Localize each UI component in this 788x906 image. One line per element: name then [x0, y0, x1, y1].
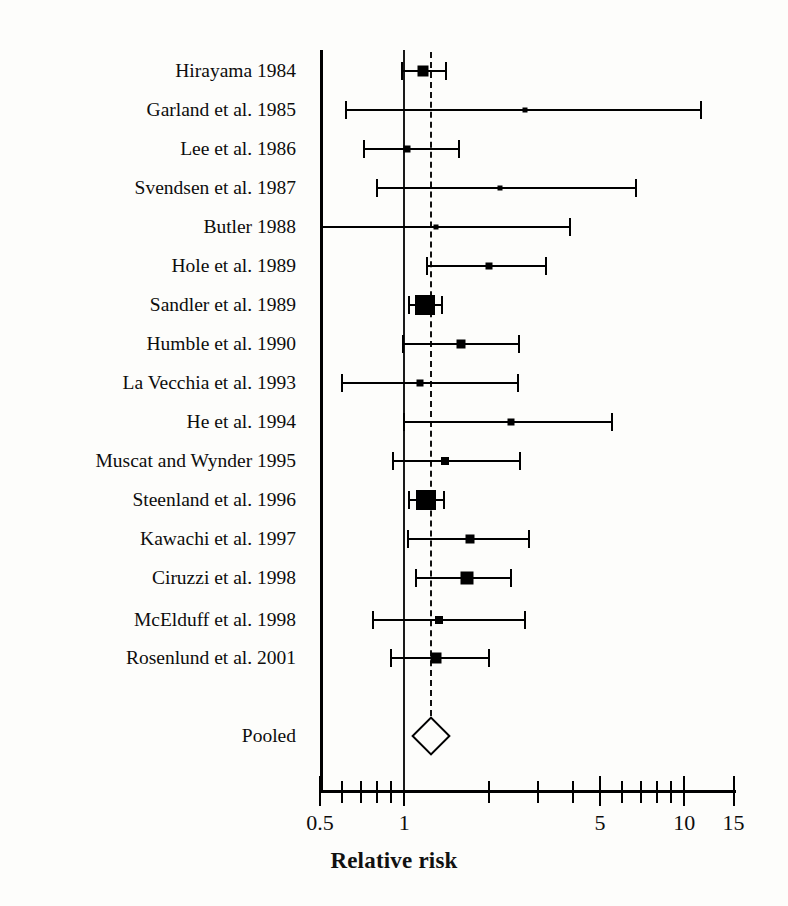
- ci-cap-high: [458, 140, 460, 158]
- x-axis-tick: [683, 776, 685, 806]
- x-axis-tick: [341, 781, 343, 803]
- effect-size-box: [523, 108, 528, 113]
- effect-size-box: [498, 186, 503, 191]
- x-axis-tick: [360, 781, 362, 803]
- ci-cap-high: [528, 530, 530, 548]
- effect-size-box: [486, 263, 493, 270]
- study-label: Hole et al. 1989: [171, 256, 296, 276]
- ci-cap-low: [403, 413, 405, 431]
- ci-cap-low: [402, 335, 404, 353]
- effect-size-box: [456, 340, 465, 349]
- ci-cap-low: [392, 452, 394, 470]
- ci-cap-high: [488, 649, 490, 667]
- study-label: La Vecchia et al. 1993: [123, 373, 296, 393]
- ci-cap-low: [345, 101, 347, 119]
- x-axis-tick: [733, 776, 735, 806]
- ci-cap-high: [545, 257, 547, 275]
- study-label: McElduff et al. 1998: [134, 610, 296, 630]
- ci-cap-low: [426, 257, 428, 275]
- ci-cap-low: [408, 491, 410, 509]
- x-axis-line: [320, 790, 736, 793]
- x-axis-tick: [656, 781, 658, 803]
- confidence-interval-line: [377, 187, 635, 189]
- x-axis-tick: [599, 776, 601, 806]
- effect-size-box: [417, 380, 424, 387]
- x-axis-tick: [621, 781, 623, 803]
- pooled-reference-line: [430, 52, 432, 716]
- x-axis-tick-label: 10: [673, 812, 695, 834]
- ci-cap-high: [517, 374, 519, 392]
- study-label: Lee et al. 1986: [180, 139, 296, 159]
- ci-cap-high: [519, 452, 521, 470]
- x-axis-tick-label: 1: [399, 812, 410, 834]
- x-axis-title: Relative risk: [0, 848, 788, 874]
- effect-size-box: [435, 616, 443, 624]
- study-label: Butler 1988: [203, 217, 296, 237]
- study-label: Ciruzzi et al. 1998: [152, 568, 296, 588]
- effect-size-box: [461, 572, 474, 585]
- ci-cap-low: [401, 62, 403, 80]
- study-label: Humble et al. 1990: [147, 334, 296, 354]
- x-axis-tick: [319, 776, 321, 806]
- effect-size-box: [507, 419, 514, 426]
- ci-cap-low: [407, 530, 409, 548]
- ci-cap-high: [445, 62, 447, 80]
- effect-size-box: [416, 490, 436, 510]
- study-label: Garland et al. 1985: [147, 100, 296, 120]
- study-label: Sandler et al. 1989: [150, 295, 296, 315]
- ci-cap-low: [363, 140, 365, 158]
- effect-size-box: [431, 653, 442, 664]
- x-axis-tick: [670, 781, 672, 803]
- x-axis-tick: [572, 781, 574, 803]
- x-axis-tick-label: 5: [595, 812, 606, 834]
- effect-size-box: [434, 225, 439, 230]
- confidence-interval-line: [364, 148, 459, 150]
- ci-cap-high: [510, 569, 512, 587]
- ci-cap-low: [341, 374, 343, 392]
- x-axis-tick: [376, 781, 378, 803]
- confidence-interval-line: [342, 382, 518, 384]
- effect-size-box: [441, 457, 449, 465]
- pooled-label: Pooled: [242, 726, 296, 746]
- ci-cap-high: [635, 179, 637, 197]
- ci-cap-low: [408, 296, 410, 314]
- ci-cap-high: [524, 611, 526, 629]
- ci-cap-high: [700, 101, 702, 119]
- x-axis-tick-label: 0.5: [306, 812, 334, 834]
- study-label: Svendsen et al. 1987: [135, 178, 296, 198]
- ci-cap-low: [390, 649, 392, 667]
- study-label: Muscat and Wynder 1995: [96, 451, 296, 471]
- forest-plot: Hirayama 1984Garland et al. 1985Lee et a…: [0, 0, 788, 906]
- study-label: Hirayama 1984: [175, 61, 296, 81]
- effect-size-box: [415, 295, 435, 315]
- x-axis-tick-label: 15: [723, 812, 745, 834]
- effect-size-box: [403, 146, 410, 153]
- x-axis-tick: [537, 781, 539, 803]
- ci-cap-high: [569, 218, 571, 236]
- ci-cap-low: [372, 611, 374, 629]
- study-label: He et al. 1994: [187, 412, 296, 432]
- ci-cap-high: [611, 413, 613, 431]
- x-axis-tick: [640, 781, 642, 803]
- effect-size-box: [465, 535, 474, 544]
- ci-cap-high: [518, 335, 520, 353]
- confidence-interval-line: [373, 619, 526, 621]
- ci-cap-low: [376, 179, 378, 197]
- study-label: Rosenlund et al. 2001: [126, 648, 296, 668]
- confidence-interval-line: [393, 460, 521, 462]
- x-axis-tick: [488, 781, 490, 803]
- study-label: Kawachi et al. 1997: [140, 529, 296, 549]
- pooled-effect-diamond: [412, 716, 452, 756]
- confidence-interval-line: [320, 226, 570, 228]
- x-axis-tick: [390, 781, 392, 803]
- study-label: Steenland et al. 1996: [132, 490, 296, 510]
- effect-size-box: [418, 66, 429, 77]
- ci-cap-high: [443, 491, 445, 509]
- ci-cap-low: [415, 569, 417, 587]
- y-axis-line: [320, 50, 323, 790]
- ci-cap-high: [441, 296, 443, 314]
